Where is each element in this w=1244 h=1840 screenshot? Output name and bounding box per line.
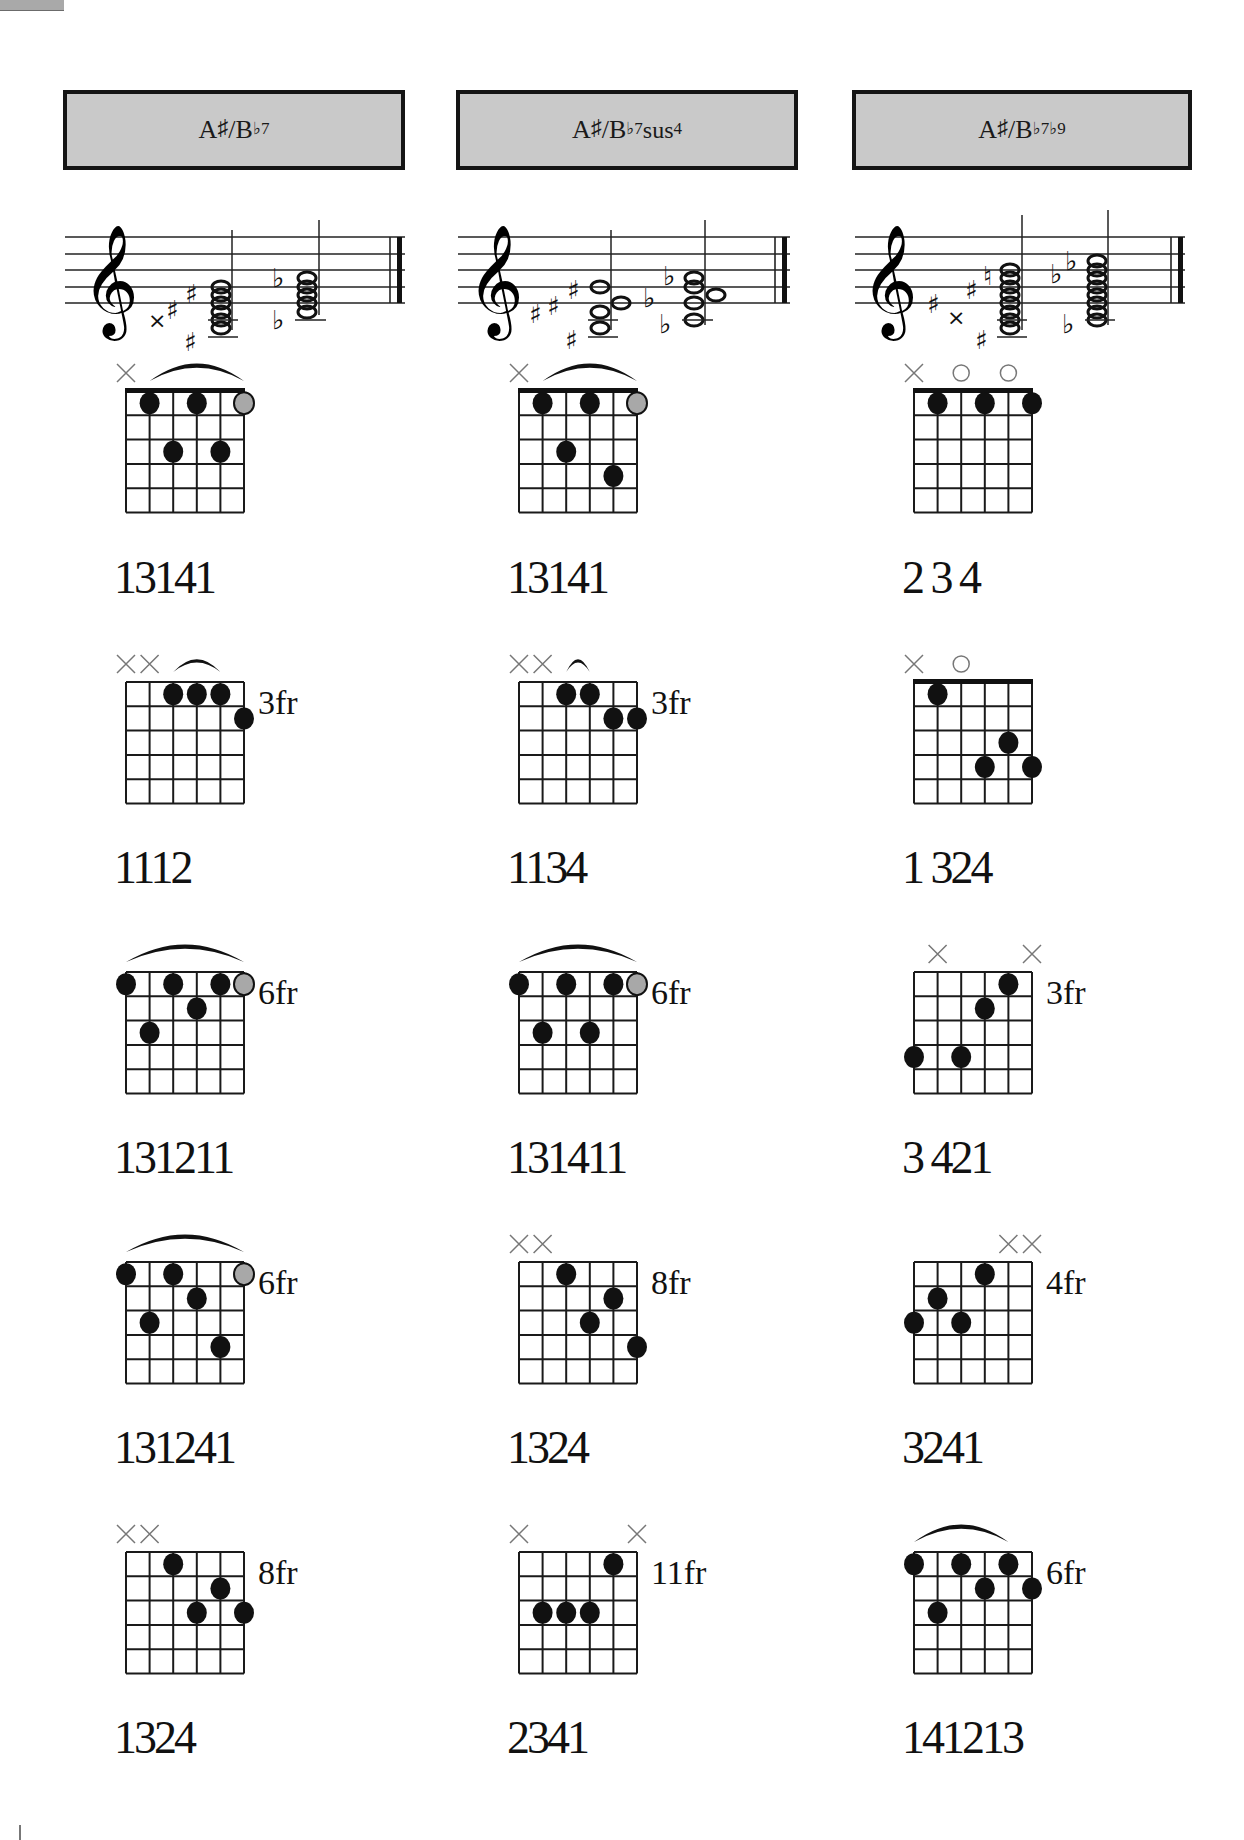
finger-dot-icon [951, 1553, 971, 1575]
finger-dot-icon [998, 973, 1018, 995]
sharp-icon: ♯ [217, 117, 228, 139]
fingering-numbers: 1324 [114, 1715, 194, 1761]
fret-position-label: 3fr [1046, 976, 1086, 1010]
finger-dot-icon [187, 392, 207, 414]
sharp-icon: ♯ [965, 275, 978, 305]
open-string-icon [953, 365, 969, 381]
fretboard-grid [874, 1492, 1174, 1692]
fingering-numbers: 2341 [507, 1715, 587, 1761]
finger-dot-icon [533, 1022, 553, 1044]
finger-dot-icon [210, 1577, 230, 1599]
fingering-numbers: 1112 [114, 845, 191, 891]
treble-clef-icon: 𝄞 [467, 224, 524, 341]
fretboard-grid [86, 1492, 386, 1692]
title-extension: 7 [634, 120, 643, 137]
chord-diagram: 11fr [479, 1492, 779, 1742]
finger-dot-icon [904, 1046, 924, 1068]
natural-icon: ♮ [983, 261, 992, 291]
muted-string-icon [141, 655, 159, 673]
muted-string-icon [510, 1525, 528, 1543]
fingering-numbers: 1134 [507, 845, 585, 891]
nut [913, 679, 1033, 684]
finger-dot-icon [187, 997, 207, 1019]
finger-dot-icon [951, 1312, 971, 1334]
treble-clef-icon: 𝄞 [861, 224, 918, 341]
optional-note-dot-icon [627, 973, 647, 995]
muted-string-icon [510, 364, 528, 382]
muted-string-icon [929, 945, 947, 963]
flat-icon: ♭ [253, 120, 261, 137]
fretboard-grid [86, 1202, 386, 1402]
nut [913, 388, 1033, 393]
finger-dot-icon [580, 1022, 600, 1044]
title-extension: 7 [1041, 120, 1050, 137]
barre-arc-icon [150, 363, 244, 381]
finger-dot-icon [163, 973, 183, 995]
fretboard-grid [479, 1492, 779, 1692]
fret-position-label: 6fr [1046, 1556, 1086, 1590]
finger-dot-icon [998, 732, 1018, 754]
double-sharp-icon: × [947, 305, 965, 330]
title-slash: /B [1008, 115, 1033, 145]
flat-icon: ♭ [663, 261, 675, 291]
finger-dot-icon [556, 1602, 576, 1624]
chord-title-a-sharp-b-flat-7sus4: A♯/B♭7sus4 [456, 90, 798, 170]
fretboard-grid [874, 331, 1174, 531]
flat-icon: ♭ [1050, 259, 1062, 289]
chord-diagram [86, 331, 386, 581]
fingering-numbers: 141213 [902, 1715, 1022, 1761]
chord-diagram: 6fr [86, 1202, 386, 1452]
finger-dot-icon [975, 392, 995, 414]
finger-dot-icon [975, 1263, 995, 1285]
muted-string-icon [141, 1525, 159, 1543]
fret-position-label: 3fr [651, 686, 691, 720]
title-slash: /B [228, 115, 253, 145]
fretboard-grid [86, 331, 386, 531]
nut [125, 388, 245, 393]
finger-dot-icon [163, 683, 183, 705]
sharp-icon: ♯ [166, 295, 179, 325]
finger-dot-icon [163, 441, 183, 463]
muted-string-icon [905, 655, 923, 673]
muted-string-icon [510, 655, 528, 673]
barre-arc-icon [126, 1234, 244, 1252]
chord-diagram: 8fr [479, 1202, 779, 1452]
finger-dot-icon [210, 683, 230, 705]
finger-dot-icon [533, 1602, 553, 1624]
finger-dot-icon [975, 1577, 995, 1599]
muted-string-icon [1023, 1235, 1041, 1253]
fingering-numbers: 131411 [507, 1135, 625, 1181]
muted-string-icon [534, 1235, 552, 1253]
title-sus-number: 4 [674, 120, 683, 137]
barre-arc-icon [173, 659, 220, 672]
chord-diagram: 6fr [479, 912, 779, 1162]
finger-dot-icon [140, 1022, 160, 1044]
fret-position-label: 3fr [258, 686, 298, 720]
finger-dot-icon [928, 1602, 948, 1624]
fingering-numbers: 1324 [507, 1425, 587, 1471]
flat-icon: ♭ [272, 263, 284, 293]
muted-string-icon [117, 655, 135, 673]
finger-dot-icon [140, 1312, 160, 1334]
chord-diagram [874, 622, 1174, 872]
page-corner-strip [0, 0, 64, 11]
finger-dot-icon [556, 683, 576, 705]
finger-dot-icon [187, 1602, 207, 1624]
flat-icon: ♭ [1033, 120, 1041, 137]
sharp-icon: ♯ [927, 289, 940, 319]
fingering-numbers: 13141 [114, 555, 214, 601]
finger-dot-icon [509, 973, 529, 995]
fret-position-label: 8fr [651, 1266, 691, 1300]
finger-dot-icon [210, 973, 230, 995]
chord-title-a-sharp-b-flat-7-flat-9: A♯/B♭7♭9 [852, 90, 1192, 170]
fretboard-grid [874, 1202, 1174, 1402]
sharp-icon: ♯ [567, 275, 580, 305]
barre-arc-icon [126, 944, 244, 962]
open-string-icon [1000, 365, 1016, 381]
finger-dot-icon [187, 683, 207, 705]
finger-dot-icon [163, 1553, 183, 1575]
finger-dot-icon [1022, 756, 1042, 778]
muted-string-icon [510, 1235, 528, 1253]
title-extension: 7 [261, 120, 270, 137]
finger-dot-icon [580, 392, 600, 414]
